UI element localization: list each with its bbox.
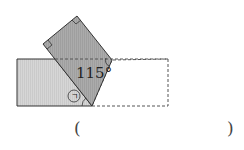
marked-angle-label: ㄱ bbox=[71, 92, 78, 101]
folded-rectangle-diagram: 115° ㄱ bbox=[0, 0, 244, 150]
answer-open-paren: ( bbox=[74, 118, 81, 138]
angle-label-115: 115° bbox=[76, 64, 112, 82]
answer-close-paren: ) bbox=[227, 118, 234, 138]
